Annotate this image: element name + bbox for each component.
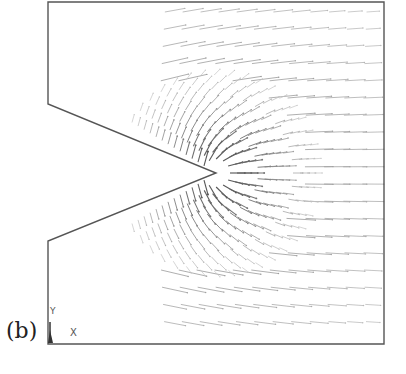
vector-field-figure [0,0,406,374]
axis-triad-icon [48,322,53,343]
axis-x-label: X [70,327,77,338]
axis-y-label: Y [50,306,56,316]
vector-field-arrows [132,8,384,327]
panel-label: (b) [6,318,37,343]
notched-specimen-outline [48,2,384,344]
